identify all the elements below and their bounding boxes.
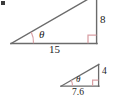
small-triangle-vertical-leg-label: 4 (102, 67, 107, 77)
large-triangle-vertical-leg-label: 8 (100, 14, 106, 25)
large-triangle-base-leg-label: 15 (49, 44, 60, 55)
small-triangle-base-leg-label: 7.6 (72, 88, 84, 96)
small-triangle-angle-arc (71, 80, 72, 86)
large-triangle-angle-label: θ (39, 29, 44, 40)
large-triangle-angle-arc (31, 32, 33, 43)
geometry-figure: 8 15 θ 4 7.6 θ (0, 0, 116, 96)
large-triangle-right-angle-marker (88, 35, 96, 43)
large-triangle-hypotenuse (11, 0, 97, 44)
small-triangle-right-angle-marker (93, 80, 99, 86)
small-triangle-angle-label: θ (76, 75, 80, 84)
large-triangle-shape (11, 0, 97, 44)
